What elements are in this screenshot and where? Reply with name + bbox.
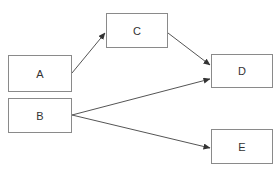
node-d: D bbox=[211, 54, 273, 88]
edge-b-to-e bbox=[72, 115, 210, 148]
edge-b-to-d bbox=[72, 79, 210, 115]
edge-c-to-d bbox=[168, 33, 210, 65]
node-a: A bbox=[8, 55, 72, 92]
flow-diagram: A B C D E bbox=[0, 0, 280, 169]
edge-a-to-c bbox=[72, 33, 105, 73]
node-c-label: C bbox=[133, 25, 141, 37]
node-d-label: D bbox=[238, 65, 246, 77]
node-c: C bbox=[106, 13, 168, 48]
node-b-label: B bbox=[36, 110, 43, 122]
node-a-label: A bbox=[36, 68, 43, 80]
node-e: E bbox=[211, 129, 273, 164]
node-b: B bbox=[8, 98, 72, 133]
node-e-label: E bbox=[238, 141, 245, 153]
